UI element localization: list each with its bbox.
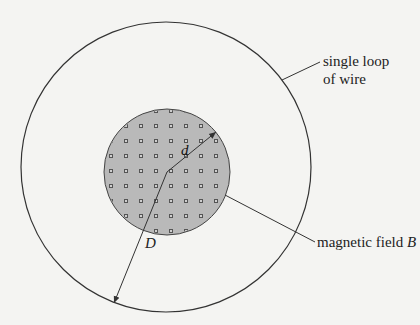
field-label: magnetic field B	[317, 233, 416, 251]
small-radius-label: d	[181, 141, 189, 159]
diagram-canvas: single loop of wire magnetic field B d D	[0, 0, 420, 325]
diagram-svg	[0, 0, 420, 325]
loop-leader-line	[282, 62, 320, 80]
magnetic-field-region	[100, 100, 240, 250]
field-label-text: magnetic field	[317, 234, 407, 250]
loop-label-line1: single loop	[323, 52, 389, 70]
loop-label-line2: of wire	[323, 70, 389, 88]
loop-label: single loop of wire	[323, 52, 389, 88]
large-radius-label: D	[145, 234, 156, 252]
field-symbol: B	[407, 234, 416, 250]
